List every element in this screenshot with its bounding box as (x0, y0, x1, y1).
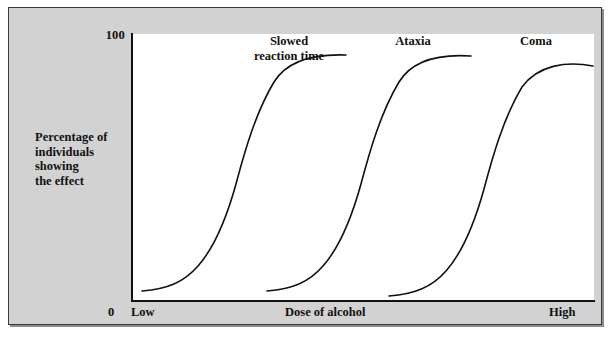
dose-response-curves (132, 34, 594, 301)
curve-slowed-reaction-time (142, 55, 346, 291)
figure-panel: Slowedreaction time Ataxia Coma 100 0 Lo… (8, 7, 602, 325)
curve-label-line-b: reaction time (237, 49, 341, 64)
curve-coma (389, 64, 593, 296)
y-axis-title-line-3: showing (35, 159, 127, 174)
y-axis-title-line-1: Percentage of (35, 130, 127, 145)
figure-root: Slowedreaction time Ataxia Coma 100 0 Lo… (0, 0, 612, 343)
y-axis-tick-top: 100 (87, 28, 125, 43)
curve-label-ataxia: Ataxia (377, 34, 449, 49)
y-axis-title: Percentage of individuals showing the ef… (35, 130, 127, 188)
x-axis-title: Dose of alcohol (285, 305, 366, 320)
curve-ataxia (267, 56, 471, 291)
y-axis-title-line-2: individuals (35, 145, 127, 160)
y-axis-tick-bottom: 0 (108, 305, 114, 320)
curve-label-slowed-reaction-time-line1: Slowedreaction time (237, 34, 341, 63)
y-axis-title-line-4: the effect (35, 174, 127, 189)
x-axis-tick-high: High (549, 305, 575, 320)
curve-label-coma: Coma (504, 34, 568, 49)
curve-label-slowed-reaction-time: Slowedreaction time (237, 34, 341, 63)
x-axis-tick-low: Low (131, 305, 155, 320)
curve-label-ataxia-text: Ataxia (395, 34, 430, 48)
curve-label-line-a: Slowed (237, 34, 341, 49)
curve-label-coma-text: Coma (520, 34, 552, 48)
